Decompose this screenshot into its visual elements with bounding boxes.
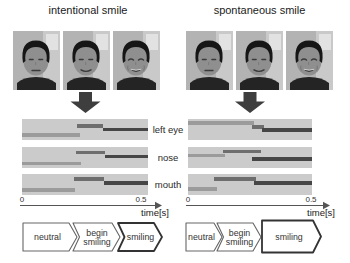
figure: intentional smile spontaneous smile left… [0,0,350,263]
axis-arrowhead-icon [323,202,330,209]
down-arrow-icon [71,92,101,113]
state-shape-label: smiling [127,232,154,242]
axis-arrowhead-icon [155,202,162,209]
state-shape-label: beginsmiling [226,228,253,248]
state-shape-label: neutral [188,232,215,242]
overlay-graphics: neutralbeginsmilingsmilingneutralbeginsm… [0,0,350,263]
state-shape-label: smiling [275,232,302,242]
down-arrow-icon [235,92,265,113]
state-shape-label: neutral [34,232,61,242]
state-shape-label: beginsmiling [83,228,110,248]
